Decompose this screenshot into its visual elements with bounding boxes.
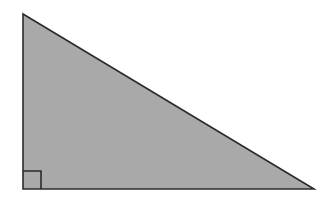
right-triangle-svg — [0, 0, 324, 202]
figure-canvas: 3 — [0, 0, 324, 202]
triangle-shape — [23, 14, 314, 189]
left-side-label: 3 — [0, 116, 5, 134]
